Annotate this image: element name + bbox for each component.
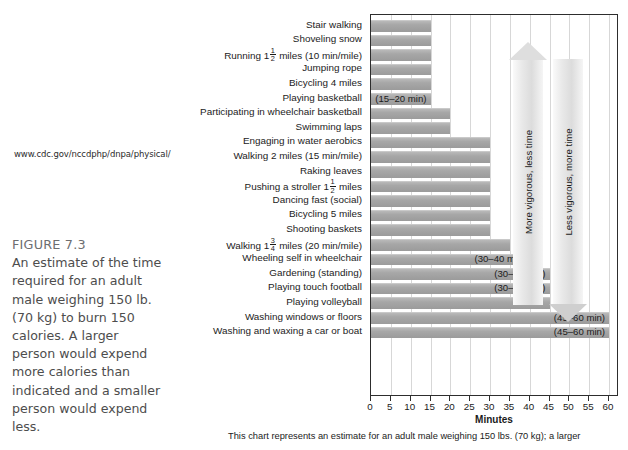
axis-tick-label: 45 [543,401,554,412]
bar[interactable] [371,224,490,236]
figure-caption: FIGURE 7.3 An estimate of the time requi… [12,236,162,436]
category-label: Pushing a stroller 112 miles [162,178,362,193]
category-label: Washing windows or floors [162,310,362,325]
category-label: Shooting baskets [162,222,362,237]
value-axis: 051015202530354045505560 Minutes [370,396,618,430]
category-label: Jumping rope [162,61,362,76]
axis-tick-label: 60 [603,401,614,412]
category-label: Bicycling 5 miles [162,207,362,222]
category-label: Playing touch football [162,280,362,295]
category-label: Playing basketball [162,91,362,106]
arrow-less-vigorous: Less vigorous, more time [553,59,583,305]
bar-row[interactable]: (45–60 min) [371,325,617,340]
bar-row[interactable] [371,19,617,34]
category-label: Walking 2 miles (15 min/mile) [162,149,362,164]
bar[interactable] [371,122,450,134]
bar[interactable] [371,166,490,178]
category-label: Raking leaves [162,164,362,179]
bar[interactable] [371,108,450,120]
bar[interactable] [371,137,490,149]
axis-tick-label: 50 [563,401,574,412]
bar[interactable] [371,20,431,32]
bar-row[interactable] [371,33,617,48]
axis-tick-label: 30 [484,401,495,412]
arrow-more-vigorous: More vigorous, less time [513,59,543,305]
arrow-less-vigorous-label: Less vigorous, more time [563,128,574,235]
axis-tick-label: 5 [387,401,392,412]
category-label: Wheeling self in wheelchair [162,251,362,266]
chart-footnote: This chart represents an estimate for an… [228,430,626,442]
axis-tick-label: 15 [424,401,435,412]
axis-tick-label: 40 [523,401,534,412]
bar[interactable] [371,239,510,251]
bar[interactable] [371,49,431,61]
category-label: Shoveling snow [162,32,362,47]
bar-value-label: (15–20 min) [371,92,427,107]
category-label: Swimming laps [162,120,362,135]
axis-tick-label: 10 [404,401,415,412]
bar[interactable] [371,195,490,207]
bar[interactable] [371,64,431,76]
category-label: Bicycling 4 miles [162,76,362,91]
bar[interactable] [371,35,431,47]
axis-tick-label: 35 [503,401,514,412]
chart-panel: Stair walkingShoveling snowRunning 112 m… [166,8,622,418]
bar[interactable] [371,151,490,163]
bar[interactable] [371,181,490,193]
source-url: www.cdc.gov/nccdphp/dnpa/physical/ [14,149,170,159]
category-label: Washing and waxing a car or boat [162,324,362,339]
category-label: Gardening (standing) [162,266,362,281]
value-axis-title: Minutes [370,414,618,425]
axis-tick-label: 25 [464,401,475,412]
arrow-more-vigorous-label: More vigorous, less time [523,130,534,234]
bar[interactable] [371,210,490,222]
bar-value-label: (45–60 min) [371,325,605,340]
bar-value-label: (30–40 min) [371,252,526,267]
plot-area: (15–20 min)(30–40 min)(30–45 min)(30–45 … [370,14,618,396]
category-label: Playing volleyball [162,295,362,310]
bar[interactable] [371,78,431,90]
axis-tick-label: 20 [444,401,455,412]
category-label: Stair walking [162,18,362,33]
figure-caption-title: FIGURE 7.3 [12,236,162,254]
figure-caption-text: An estimate of the time required for an … [12,254,162,436]
category-label: Walking 134 miles (20 min/mile) [162,237,362,252]
axis-tick-label: 55 [583,401,594,412]
category-label: Running 112 miles (10 min/mile) [162,47,362,62]
category-label: Dancing fast (social) [162,193,362,208]
category-label: Participating in wheelchair basketball [162,105,362,120]
axis-tick-label: 0 [367,401,372,412]
category-label: Engaging in water aerobics [162,134,362,149]
